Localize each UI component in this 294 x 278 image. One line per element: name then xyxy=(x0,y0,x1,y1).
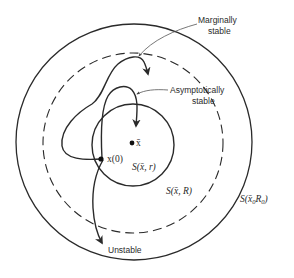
initial-point-label: x(0) xyxy=(107,154,123,165)
asymptotically-stable-label-2: stable xyxy=(192,96,215,106)
inner-region-label: S(x̄, r) xyxy=(132,162,156,173)
unstable-trajectory xyxy=(93,160,103,243)
unstable-label: Unstable xyxy=(108,245,142,255)
marginally-stable-label-2: stable xyxy=(208,26,231,36)
equilibrium-label: x̄ xyxy=(136,138,141,148)
marginally-stable-label-1: Marginally xyxy=(198,15,237,25)
equilibrium-point xyxy=(130,141,135,146)
stability-diagram: x̄ x(0) Marginally stable Asymptotically… xyxy=(0,0,294,278)
outer-region-label: S(x̄0R0) xyxy=(240,194,268,205)
asymptotically-stable-trajectory xyxy=(101,87,137,158)
initial-point xyxy=(98,156,103,161)
asymptotically-stable-label-1: Asymptotically xyxy=(170,85,225,95)
middle-region-label: S(x̄, R) xyxy=(166,186,192,197)
asymptotically-stable-pointer xyxy=(137,90,168,94)
